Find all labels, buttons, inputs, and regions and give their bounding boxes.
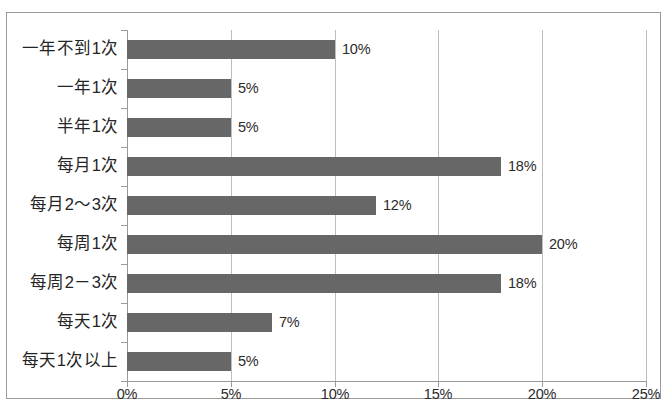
y-tick-mark (121, 225, 127, 226)
bar-value-label: 18% (508, 157, 536, 176)
x-tick-label-5: 5% (221, 386, 242, 402)
bar (127, 40, 335, 59)
y-tick-mark (121, 30, 127, 31)
x-tick-label-20: 20% (528, 386, 556, 402)
category-label: 每周1次 (0, 234, 119, 253)
bar (127, 274, 501, 293)
bar-value-label: 20% (549, 235, 577, 254)
bar-value-label: 5% (238, 79, 259, 98)
category-label: 每天1次 (0, 312, 119, 331)
category-label: 半年1次 (0, 117, 119, 136)
gridline-25 (646, 30, 647, 381)
x-tick-label-0: 0% (117, 386, 138, 402)
x-tick-label-25: 25% (632, 386, 660, 402)
category-label: 一年1次 (0, 78, 119, 97)
bar (127, 157, 501, 176)
category-label: 每天1次以上 (0, 351, 119, 370)
y-tick-mark (121, 186, 127, 187)
y-tick-mark (121, 147, 127, 148)
bar-value-label: 18% (508, 274, 536, 293)
x-axis-line (127, 381, 647, 382)
bar-value-label: 12% (383, 196, 411, 215)
bar-value-label: 5% (238, 118, 259, 137)
category-label: 每月2～3次 (0, 195, 119, 214)
bar (127, 196, 376, 215)
bar-chart-figure: 10%5%5%18%12%20%18%7%5% 一年不到1次一年1次半年1次每月… (0, 0, 668, 409)
bar (127, 313, 272, 332)
gridline-15 (438, 30, 439, 381)
y-tick-mark (121, 69, 127, 70)
x-tick-label-15: 15% (424, 386, 452, 402)
bar (127, 352, 231, 371)
bar (127, 79, 231, 98)
gridline-20 (542, 30, 543, 381)
bar-value-label: 5% (238, 352, 259, 371)
x-tick-label-10: 10% (321, 386, 349, 402)
category-label: 每月1次 (0, 156, 119, 175)
bar (127, 118, 231, 137)
category-label: 每周2－3次 (0, 273, 119, 292)
y-tick-mark (121, 303, 127, 304)
category-label: 一年不到1次 (0, 39, 119, 58)
bar-value-label: 7% (279, 313, 300, 332)
y-tick-mark (121, 264, 127, 265)
bar-value-label: 10% (342, 40, 370, 59)
bar (127, 235, 542, 254)
y-tick-mark (121, 108, 127, 109)
y-tick-mark (121, 342, 127, 343)
